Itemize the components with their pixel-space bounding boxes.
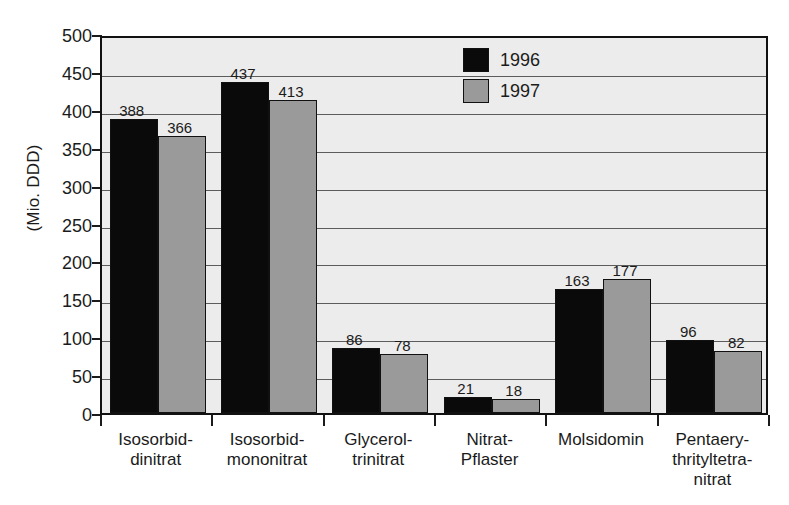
bar-1996-2 (332, 348, 380, 413)
bar-value-label: 78 (394, 337, 411, 354)
bar-1996-5 (666, 340, 714, 413)
bar-value-label: 163 (564, 272, 589, 289)
legend-swatch-icon (463, 79, 489, 103)
bar-1996-0 (110, 119, 158, 413)
y-axis-tick-label: 400 (30, 101, 92, 122)
bar-1997-3 (492, 399, 540, 413)
y-axis-tick-label: 250 (30, 215, 92, 236)
legend-label: 1997 (500, 81, 540, 102)
bar-value-label: 21 (457, 380, 474, 397)
plot-area (100, 36, 768, 415)
x-axis-separator (211, 415, 213, 426)
y-axis-tick-label: 100 (30, 329, 92, 350)
legend-item-1997[interactable]: 1997 (463, 79, 540, 103)
x-axis-category-label: Pentaery- thrityltetra- nitrat (645, 430, 780, 490)
y-axis-tick-label: 450 (30, 63, 92, 84)
y-axis-tick-label: 0 (30, 405, 92, 426)
bar-1997-2 (380, 354, 428, 413)
x-axis-separator (100, 415, 102, 426)
bar-chart: (Mio. DDD) 05010015020025030035040045050… (0, 0, 789, 505)
bar-value-label: 366 (167, 119, 192, 136)
gridline (102, 114, 766, 115)
x-axis-separator (323, 415, 325, 426)
bar-value-label: 388 (119, 102, 144, 119)
legend-label: 1996 (500, 50, 540, 71)
y-axis-tick-label: 500 (30, 26, 92, 47)
bar-1997-1 (269, 100, 317, 413)
legend-item-1996[interactable]: 1996 (463, 48, 540, 72)
y-axis-tick-label: 50 (30, 367, 92, 388)
bar-value-label: 177 (612, 262, 637, 279)
y-axis-tick-label: 200 (30, 253, 92, 274)
bar-1997-0 (158, 136, 206, 413)
bar-value-label: 86 (346, 331, 363, 348)
bar-1996-3 (444, 397, 492, 413)
x-axis-separator (545, 415, 547, 426)
bar-value-label: 96 (680, 323, 697, 340)
bar-1996-1 (221, 82, 269, 413)
bar-1997-5 (714, 351, 762, 413)
gridline (102, 76, 766, 77)
bar-1996-4 (555, 289, 603, 413)
legend: 19961997 (463, 48, 540, 103)
legend-swatch-icon (463, 48, 489, 72)
bar-value-label: 82 (728, 334, 745, 351)
y-axis-tick-label: 300 (30, 177, 92, 198)
y-axis-tick-label: 350 (30, 139, 92, 160)
bar-value-label: 437 (230, 65, 255, 82)
y-axis-tick-label: 150 (30, 291, 92, 312)
bar-1997-4 (603, 279, 651, 413)
x-axis-separator (434, 415, 436, 426)
bar-value-label: 413 (278, 83, 303, 100)
x-axis-separator (657, 415, 659, 426)
x-axis-separator (768, 415, 770, 426)
bar-value-label: 18 (505, 382, 522, 399)
